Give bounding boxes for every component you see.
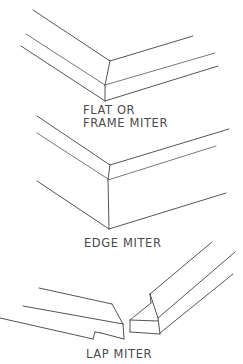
miter-joints-diagram: FLAT OR FRAME MITER EDGE MITER LAP MITER [0, 0, 243, 364]
flat-miter-drawing [21, 10, 218, 101]
edge-miter-label: EDGE MITER [84, 237, 162, 249]
lap-miter-right-piece [130, 242, 235, 334]
edge-miter-drawing [37, 116, 229, 229]
diagram-drawing [0, 0, 243, 364]
flat-miter-label-line2: FRAME MITER [83, 117, 168, 129]
lap-miter-left-piece [0, 288, 124, 339]
flat-miter-label-line1: FLAT OR [83, 104, 135, 116]
lap-miter-label: LAP MITER [86, 348, 152, 360]
